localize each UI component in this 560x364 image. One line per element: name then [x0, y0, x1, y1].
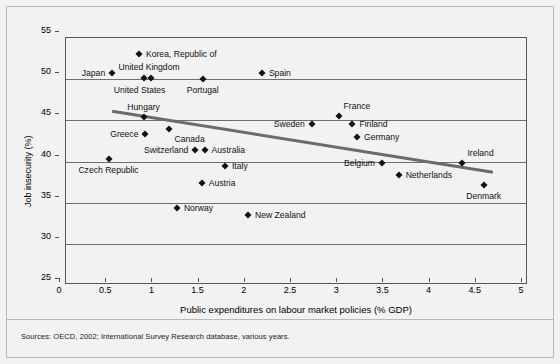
- x-axis-title: Public expenditures on labour market pol…: [65, 304, 527, 315]
- x-tick-mark: [59, 278, 60, 282]
- data-point-marker: [308, 121, 315, 128]
- y-tick-mark: [55, 237, 59, 238]
- data-point-label: Korea, Republic of: [146, 49, 217, 59]
- x-tick-mark: [475, 278, 476, 282]
- data-point-marker: [480, 181, 487, 188]
- data-point-label: Japan: [82, 68, 105, 78]
- data-point-label: Germany: [364, 132, 399, 142]
- data-point-marker: [165, 125, 172, 132]
- data-point-label: Switzerland: [144, 145, 188, 155]
- data-point-marker: [192, 146, 199, 153]
- y-tick-label: 45: [7, 107, 51, 117]
- x-tick-label: 3.5: [376, 285, 389, 295]
- data-point-marker: [244, 211, 251, 218]
- x-tick-label: 0: [56, 285, 61, 295]
- data-point-label: Czech Republic: [78, 165, 138, 175]
- x-tick-label: 5: [518, 285, 523, 295]
- x-tick-label: 2: [241, 285, 246, 295]
- x-tick-label: 0.5: [99, 285, 112, 295]
- y-tick-label: 40: [7, 149, 51, 159]
- data-point-label: Portugal: [187, 85, 219, 95]
- data-point-marker: [199, 76, 206, 83]
- x-tick-mark: [244, 278, 245, 282]
- data-point-label: Belgium: [344, 158, 375, 168]
- x-tick-label: 4: [426, 285, 431, 295]
- data-point-marker: [459, 160, 466, 167]
- data-point-label: New Zealand: [255, 210, 306, 220]
- data-point-marker: [201, 146, 208, 153]
- gridline-y: [66, 244, 526, 245]
- data-point-label: Italy: [232, 161, 248, 171]
- x-tick-mark: [198, 278, 199, 282]
- data-point-label: France: [344, 101, 371, 111]
- x-tick-label: 1: [149, 285, 154, 295]
- data-point-label: Canada: [175, 134, 205, 144]
- x-tick-label: 1.5: [191, 285, 204, 295]
- data-point-marker: [142, 130, 149, 137]
- y-tick-label: 35: [7, 190, 51, 200]
- data-point-label: United States: [114, 85, 166, 95]
- y-tick-label: 50: [7, 66, 51, 76]
- x-tick-mark: [290, 278, 291, 282]
- data-point-label: Norway: [184, 203, 213, 213]
- sources-frame: Sources: OECD, 2002; International Surve…: [6, 320, 554, 358]
- x-tick-label: 3: [334, 285, 339, 295]
- x-tick-label: 4.5: [469, 285, 482, 295]
- data-point-marker: [335, 113, 342, 120]
- x-tick-mark: [429, 278, 430, 282]
- data-point-label: Greece: [110, 129, 138, 139]
- data-point-marker: [258, 69, 265, 76]
- data-point-label: Finland: [359, 119, 387, 129]
- data-point-label: Denmark: [466, 191, 501, 201]
- gridline-y: [66, 79, 526, 80]
- y-tick-label: 30: [7, 231, 51, 241]
- y-tick-mark: [55, 113, 59, 114]
- x-tick-mark: [105, 278, 106, 282]
- y-tick-mark: [55, 155, 59, 156]
- chart-frame: Job insecurity (%) Korea, Republic ofJap…: [6, 6, 554, 320]
- y-tick-label: 55: [7, 25, 51, 35]
- data-point-label: Ireland: [467, 148, 493, 158]
- x-tick-mark: [151, 278, 152, 282]
- x-tick-mark: [336, 278, 337, 282]
- data-point-marker: [221, 162, 228, 169]
- plot-area: Korea, Republic ofJapanUnited KingdomUni…: [65, 37, 527, 284]
- data-point-label: Sweden: [274, 119, 305, 129]
- data-point-label: Austria: [209, 178, 236, 188]
- data-point-marker: [378, 160, 385, 167]
- x-tick-label: 2.5: [284, 285, 297, 295]
- data-point-marker: [354, 133, 361, 140]
- y-tick-label: 25: [7, 272, 51, 282]
- y-tick-mark: [55, 72, 59, 73]
- data-point-marker: [349, 121, 356, 128]
- data-point-label: United Kingdom: [118, 62, 179, 72]
- x-tick-mark: [521, 278, 522, 282]
- figure-container: Job insecurity (%) Korea, Republic ofJap…: [0, 0, 560, 364]
- sources-note: Sources: OECD, 2002; International Surve…: [21, 332, 290, 341]
- x-tick-mark: [382, 278, 383, 282]
- data-point-marker: [135, 51, 142, 58]
- data-point-marker: [173, 204, 180, 211]
- y-tick-mark: [55, 31, 59, 32]
- data-point-label: Netherlands: [406, 170, 452, 180]
- data-point-label: Hungary: [127, 102, 159, 112]
- data-point-label: Australia: [212, 145, 245, 155]
- y-tick-mark: [55, 196, 59, 197]
- data-point-marker: [109, 69, 116, 76]
- data-point-marker: [198, 179, 205, 186]
- data-point-marker: [395, 171, 402, 178]
- data-point-label: Spain: [269, 68, 291, 78]
- gridline-y: [66, 203, 526, 204]
